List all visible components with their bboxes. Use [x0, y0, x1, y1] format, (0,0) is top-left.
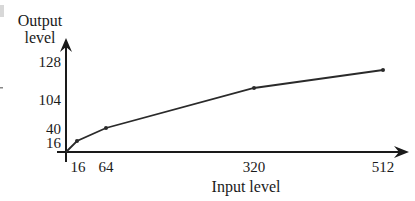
data-point [252, 86, 256, 90]
transfer-curve [66, 70, 383, 152]
x-tick-label: 16 [71, 159, 87, 175]
y-tick-label: 104 [39, 92, 62, 108]
output-vs-input-chart: Output level 128 104 40 16 16 64 320 512… [0, 0, 415, 201]
edge-artifact [0, 5, 4, 17]
y-axis-title-line1: Output [18, 12, 63, 30]
y-tick-label: 16 [46, 135, 62, 151]
y-axis-title-line2: level [24, 29, 56, 46]
x-axis-title: Input level [212, 178, 281, 196]
y-tick-label: 128 [39, 54, 62, 70]
data-point [75, 139, 79, 143]
data-point [381, 68, 385, 72]
edge-artifact [0, 87, 3, 89]
x-tick-label: 64 [99, 159, 115, 175]
x-tick-label: 320 [243, 159, 266, 175]
data-point [104, 126, 108, 130]
x-tick-label: 512 [372, 159, 395, 175]
